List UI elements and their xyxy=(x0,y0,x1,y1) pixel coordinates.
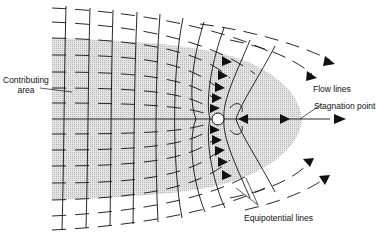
flow-net-svg xyxy=(0,0,377,235)
contributing-label-line1: Contributing xyxy=(3,75,49,85)
equipotential-lines-label: Equipotential lines xyxy=(244,213,313,223)
flow-lines-label: Flow lines xyxy=(313,84,351,94)
flow-net-diagram: Contributing area Flow lines Stagnation … xyxy=(0,0,377,235)
contributing-label-line2: area xyxy=(3,85,49,95)
pumping-well-icon xyxy=(212,113,224,125)
stagnation-point-label: Stagnation point xyxy=(314,101,375,111)
contributing-area-label: Contributing area xyxy=(3,75,49,95)
